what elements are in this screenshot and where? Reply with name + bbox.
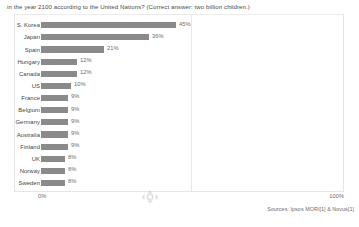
bar-track: 36%: [41, 34, 341, 40]
bar-track: 9%: [41, 95, 341, 101]
bar-category-label: US: [15, 83, 40, 89]
bar-category-label: Japan: [15, 34, 40, 40]
bar-row: Spain21%: [15, 43, 343, 56]
bar-value-label: 8%: [68, 166, 76, 172]
bar-value-label: 9%: [71, 106, 79, 112]
bar-value-label: 9%: [71, 130, 79, 136]
bar-row: Canada12%: [15, 68, 343, 81]
question-text: in the year 2100 according to the United…: [7, 2, 357, 11]
bar-row: Japan36%: [15, 31, 343, 44]
bar-value-label: 8%: [68, 178, 76, 184]
chart-page: in the year 2100 according to the United…: [0, 0, 359, 227]
bar-track: 21%: [41, 46, 341, 52]
bar-value-label: 8%: [68, 154, 76, 160]
bar-rows: S. Korea45%Japan36%Spain21%Hungary12%Can…: [15, 15, 343, 191]
bar-row: Australia9%: [15, 128, 343, 141]
bar: [41, 34, 149, 40]
bar-value-label: 10%: [74, 81, 86, 87]
bar-track: 45%: [41, 22, 341, 28]
bar-category-label: Australia: [15, 132, 40, 138]
bar: [41, 46, 104, 52]
bar-value-label: 36%: [152, 33, 164, 39]
bar-value-label: 12%: [80, 57, 92, 63]
bar-track: 8%: [41, 180, 341, 186]
bar-category-label: S. Korea: [15, 22, 40, 28]
bar-row: Germany9%: [15, 116, 343, 129]
bar: [41, 59, 77, 65]
bar: [41, 168, 65, 174]
bar: [41, 180, 65, 186]
bar: [41, 71, 77, 77]
source-note: Sources: Ipsos MORI[1] & Novus[1]: [267, 206, 354, 212]
bar-category-label: France: [15, 95, 40, 101]
bar-row: Finland9%: [15, 140, 343, 153]
bar-track: 9%: [41, 119, 341, 125]
bar-value-label: 9%: [71, 118, 79, 124]
bar: [41, 131, 68, 137]
bar-category-label: Hungary: [15, 59, 40, 65]
bar-track: 9%: [41, 131, 341, 137]
bar: [41, 144, 68, 150]
bar-track: 9%: [41, 144, 341, 150]
bar-row: S. Korea45%: [15, 19, 343, 32]
bar-track: 8%: [41, 168, 341, 174]
bar-row: Sweden8%: [15, 177, 343, 190]
bar-value-label: 12%: [80, 69, 92, 75]
axis-tick-min: 0%: [38, 193, 46, 199]
bar-value-label: 45%: [179, 21, 191, 27]
bar-value-label: 9%: [71, 93, 79, 99]
bar-row: France9%: [15, 92, 343, 105]
bar-value-label: 21%: [107, 45, 119, 51]
x-axis: 0% 100%: [14, 193, 344, 204]
bar: [41, 119, 68, 125]
bar-category-label: UK: [15, 156, 40, 162]
bar: [41, 156, 65, 162]
bar-category-label: Sweden: [15, 180, 40, 186]
bar-category-label: Finland: [15, 144, 40, 150]
bar-category-label: Norway: [15, 168, 40, 174]
bar-row: UK8%: [15, 153, 343, 166]
chart-plot-area: S. Korea45%Japan36%Spain21%Hungary12%Can…: [14, 14, 344, 192]
bar-track: 12%: [41, 59, 341, 65]
bar-track: 8%: [41, 156, 341, 162]
bar-track: 12%: [41, 71, 341, 77]
bar-track: 10%: [41, 83, 341, 89]
bar-row: Belgium9%: [15, 104, 343, 117]
bar-row: Hungary12%: [15, 55, 343, 68]
bar: [41, 83, 71, 89]
bar-category-label: Germany: [15, 119, 40, 125]
bar: [41, 22, 176, 28]
bar-row: US10%: [15, 80, 343, 93]
bar: [41, 95, 68, 101]
bar-track: 9%: [41, 107, 341, 113]
bar-category-label: Belgium: [15, 107, 40, 113]
bar-category-label: Canada: [15, 71, 40, 77]
bar-value-label: 9%: [71, 142, 79, 148]
axis-tick-max: 100%: [329, 193, 344, 199]
gapminder-logo-icon: [141, 190, 159, 204]
bar-row: Norway8%: [15, 165, 343, 178]
bar: [41, 107, 68, 113]
bar-category-label: Spain: [15, 47, 40, 53]
